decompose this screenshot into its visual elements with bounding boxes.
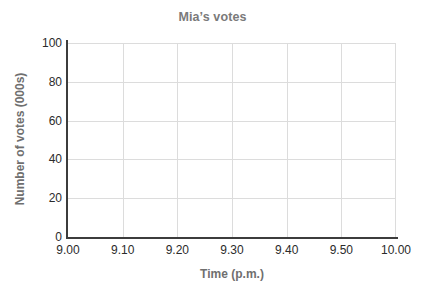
- x-tick-label-950: 9.50: [330, 243, 353, 257]
- x-axis-title: Time (p.m.): [68, 267, 396, 281]
- x-tick-label-910: 9.10: [111, 243, 134, 257]
- y-tick-label-100: 100: [42, 36, 62, 50]
- y-tick-label-80: 80: [49, 75, 62, 89]
- x-tick-label-1000: 10.00: [381, 243, 411, 257]
- y-axis-title: Number of votes (000s): [13, 39, 27, 239]
- gridline-vertical-930: [232, 43, 233, 237]
- x-tick-label-900: 9.00: [56, 243, 79, 257]
- plot-area: [68, 43, 396, 237]
- x-tick-label-930: 9.30: [220, 243, 243, 257]
- gridline-vertical-920: [177, 43, 178, 237]
- x-tick-label-940: 9.40: [275, 243, 298, 257]
- x-axis-line: [67, 237, 398, 239]
- chart-title: Mia’s votes: [0, 10, 425, 24]
- gridline-vertical-940: [287, 43, 288, 237]
- y-axis-line: [66, 40, 68, 239]
- chart-container: Mia’s votes 0 20 40 60 80 100 9.00 9.10 …: [0, 0, 425, 300]
- gridline-vertical-1000: [395, 43, 396, 237]
- y-tick-label-0: 0: [55, 230, 62, 244]
- y-tick-label-20: 20: [49, 191, 62, 205]
- gridline-vertical-950: [341, 43, 342, 237]
- gridline-vertical-910: [123, 43, 124, 237]
- y-tick-label-40: 40: [49, 152, 62, 166]
- x-tick-label-920: 9.20: [166, 243, 189, 257]
- y-tick-label-60: 60: [49, 114, 62, 128]
- x-axis-tick-labels: 9.00 9.10 9.20 9.30 9.40 9.50 10.00: [0, 243, 425, 263]
